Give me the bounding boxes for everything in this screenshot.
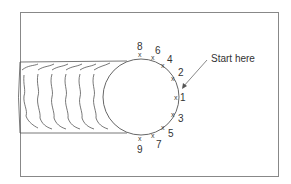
tack-number-label: 7	[156, 139, 162, 150]
tube-circle	[103, 59, 179, 135]
tack-number-label: 1	[180, 92, 186, 103]
weld-sequence-diagram: x1x2x3x4x5x6x7x8x9 Start here	[0, 0, 291, 184]
tack-number-label: 8	[137, 41, 143, 52]
tack-number-label: 4	[167, 54, 173, 65]
tack-number-label: 3	[178, 113, 184, 124]
bead-left-end	[19, 62, 21, 133]
tack-number-label: 6	[155, 45, 161, 56]
tack-x-mark: x	[161, 124, 165, 131]
tack-x-mark: x	[171, 75, 175, 82]
tack-number-label: 9	[137, 144, 143, 155]
tack-x-mark: x	[171, 111, 175, 118]
tack-x-mark: x	[161, 62, 165, 69]
tack-x-mark: x	[151, 132, 155, 139]
tack-number-label: 2	[178, 67, 184, 78]
tack-x-mark: x	[174, 94, 178, 101]
tack-number-label: 5	[168, 128, 174, 139]
tack-x-mark: x	[138, 135, 142, 142]
start-here-label: Start here	[211, 53, 255, 64]
